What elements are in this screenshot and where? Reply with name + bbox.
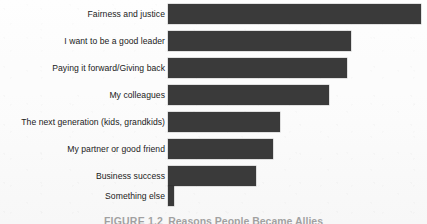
bar-fill bbox=[168, 58, 347, 78]
bar-row: Business success bbox=[0, 166, 427, 186]
bar-fill bbox=[168, 4, 421, 24]
bar-category-label: Business success bbox=[0, 171, 165, 181]
bar-category-label: The next generation (kids, grandkids) bbox=[0, 117, 165, 127]
bar-row: Something else bbox=[0, 186, 427, 206]
bar-category-label: Fairness and justice bbox=[0, 9, 165, 19]
bar-track bbox=[168, 112, 280, 132]
bar-row: Paying it forward/Giving back bbox=[0, 58, 427, 78]
bar-row: I want to be a good leader bbox=[0, 31, 427, 51]
bar-category-label: My colleagues bbox=[0, 90, 165, 100]
figure-container: Fairness and justice I want to be a good… bbox=[0, 0, 427, 224]
figure-caption: FIGURE 1.2Reasons People Became Allies bbox=[0, 215, 427, 224]
bar-chart-plot-area: Fairness and justice I want to be a good… bbox=[0, 0, 427, 206]
bar-track bbox=[168, 31, 351, 51]
bar-category-label: My partner or good friend bbox=[0, 144, 165, 154]
bar-row: Fairness and justice bbox=[0, 4, 427, 24]
figure-caption-number: FIGURE 1.2 bbox=[104, 215, 163, 224]
bar-track bbox=[168, 166, 256, 186]
bar-fill bbox=[168, 112, 280, 132]
bar-track bbox=[168, 85, 329, 105]
bar-track bbox=[168, 58, 347, 78]
bar-fill bbox=[168, 85, 329, 105]
bar-track bbox=[168, 4, 421, 24]
bar-fill bbox=[168, 166, 256, 186]
bar-row: The next generation (kids, grandkids) bbox=[0, 112, 427, 132]
bar-track bbox=[168, 186, 174, 206]
bar-fill bbox=[168, 139, 273, 159]
bar-track bbox=[168, 139, 273, 159]
bar-fill bbox=[168, 31, 351, 51]
bar-category-label: Something else bbox=[0, 191, 165, 201]
bar-category-label: Paying it forward/Giving back bbox=[0, 63, 165, 73]
bar-row: My partner or good friend bbox=[0, 139, 427, 159]
bar-category-label: I want to be a good leader bbox=[0, 36, 165, 46]
figure-caption-title: Reasons People Became Allies bbox=[168, 215, 323, 224]
bar-fill bbox=[168, 186, 174, 206]
bar-row: My colleagues bbox=[0, 85, 427, 105]
figure-caption-clip: FIGURE 1.2Reasons People Became Allies bbox=[0, 206, 427, 224]
